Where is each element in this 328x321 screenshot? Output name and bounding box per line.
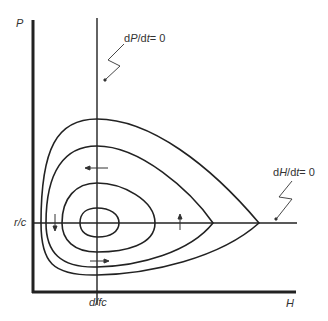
y-equilibrium-label: r/c	[14, 216, 27, 228]
dh-dt-nullcline-label: dH/dt= 0	[273, 166, 315, 178]
arrow-up-icon	[178, 214, 182, 230]
x-axis-label: H	[286, 297, 294, 309]
orbits	[41, 119, 259, 275]
y-axis-label: P	[16, 17, 24, 29]
orbit-4	[41, 119, 259, 275]
dh-dt-pointer	[277, 181, 292, 218]
x-equilibrium-label: d/fc	[89, 296, 107, 308]
direction-arrows	[53, 166, 182, 263]
arrow-right-icon	[90, 259, 109, 263]
dp-dt-nullcline-label: dP/dt= 0	[124, 32, 165, 44]
phase-plane-diagram: P H r/c d/fc dP/dt= 0 dH/dt= 0	[0, 0, 328, 321]
orbit-2	[62, 183, 155, 252]
dp-dt-pointer	[106, 44, 124, 79]
